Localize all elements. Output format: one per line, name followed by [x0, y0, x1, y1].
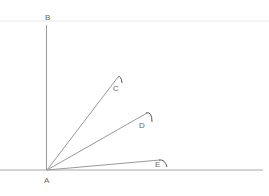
label-a: A [44, 176, 50, 185]
ray-ad [47, 113, 147, 170]
arc-d [146, 113, 152, 122]
label-c: C [113, 84, 119, 93]
ray-ac [47, 77, 118, 170]
label-b: B [45, 13, 50, 22]
ray-ae [47, 160, 160, 170]
arc-c [118, 77, 122, 83]
angle-diagram: B C D E A [0, 0, 269, 196]
label-d: D [139, 121, 145, 130]
label-e: E [155, 160, 160, 169]
